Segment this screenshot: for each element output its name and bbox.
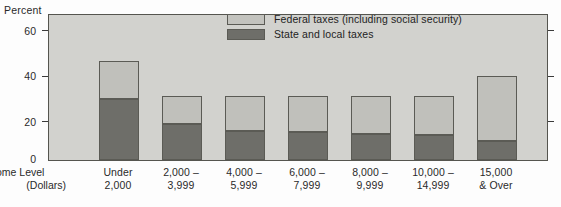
- x-label-line1: Under: [85, 166, 151, 179]
- bar-segment-federal: [162, 96, 202, 124]
- bar-2000-3999: [162, 96, 202, 160]
- x-label-line2: 7,999: [274, 179, 340, 192]
- x-label-6000-7999: 6,000 – 7,999: [274, 166, 340, 191]
- legend-swatch-icon-federal: [227, 14, 265, 25]
- bar-segment-federal: [351, 96, 391, 134]
- stacked-bar-chart: Percent 60 40 20 0: [0, 0, 561, 207]
- y-tick-label-20: 20: [6, 116, 36, 128]
- bar-segment-federal: [414, 96, 454, 136]
- x-label-10000-14999: 10,000 – 14,999: [400, 166, 466, 191]
- x-axis-caption-line2: (Dollars): [0, 179, 66, 192]
- x-label-under-2000: Under 2,000: [85, 166, 151, 191]
- x-label-line1: 2,000 –: [148, 166, 214, 179]
- y-tick-mark-40-right: [548, 76, 554, 77]
- bar-under-2000: [99, 61, 139, 160]
- bar-15000-and-over: [477, 76, 517, 160]
- x-label-line1: 10,000 –: [400, 166, 466, 179]
- x-label-line1: 6,000 –: [274, 166, 340, 179]
- x-label-line2: 9,999: [337, 179, 403, 192]
- y-tick-mark-20-right: [548, 121, 554, 122]
- bar-segment-federal: [225, 96, 265, 131]
- bar-segment-federal: [477, 76, 517, 140]
- y-axis-title: Percent: [4, 4, 42, 16]
- bar-segment-state-local: [99, 99, 139, 160]
- x-label-line1: 4,000 –: [211, 166, 277, 179]
- bar-segment-federal: [288, 96, 328, 132]
- y-tick-mark-60-right: [548, 30, 554, 31]
- bar-segment-state-local: [477, 141, 517, 160]
- x-label-line1: 15,000: [463, 166, 529, 179]
- bar-segment-state-local: [414, 135, 454, 160]
- legend-label-federal: Federal taxes (including social security…: [274, 13, 462, 25]
- x-axis-caption: Income Level (Dollars): [0, 166, 66, 191]
- legend-label-state-local: State and local taxes: [274, 28, 374, 40]
- x-axis-caption-line1: Income Level: [0, 166, 44, 178]
- x-label-line2: 3,999: [148, 179, 214, 192]
- bar-segment-state-local: [225, 131, 265, 160]
- x-label-8000-9999: 8,000 – 9,999: [337, 166, 403, 191]
- bar-segment-state-local: [288, 132, 328, 160]
- bar-10000-14999: [414, 96, 454, 160]
- legend-swatch-icon-state-local: [227, 29, 265, 40]
- x-label-line2: & Over: [463, 179, 529, 192]
- bar-4000-5999: [225, 96, 265, 160]
- bar-8000-9999: [351, 96, 391, 160]
- legend-item-federal: Federal taxes (including social security…: [227, 12, 462, 26]
- bar-segment-state-local: [351, 134, 391, 160]
- y-tick-label-40: 40: [6, 70, 36, 82]
- bar-segment-federal: [99, 61, 139, 99]
- legend-item-state-local: State and local taxes: [227, 27, 462, 41]
- x-label-15000-and-over: 15,000 & Over: [463, 166, 529, 191]
- bar-segment-state-local: [162, 124, 202, 160]
- legend: Federal taxes (including social security…: [227, 12, 462, 42]
- x-label-line2: 2,000: [85, 179, 151, 192]
- x-label-line1: 8,000 –: [337, 166, 403, 179]
- x-label-4000-5999: 4,000 – 5,999: [211, 166, 277, 191]
- bar-6000-7999: [288, 96, 328, 160]
- x-label-line2: 14,999: [400, 179, 466, 192]
- y-tick-label-0: 0: [6, 153, 36, 165]
- y-tick-label-60: 60: [6, 25, 36, 37]
- x-label-2000-3999: 2,000 – 3,999: [148, 166, 214, 191]
- x-label-line2: 5,999: [211, 179, 277, 192]
